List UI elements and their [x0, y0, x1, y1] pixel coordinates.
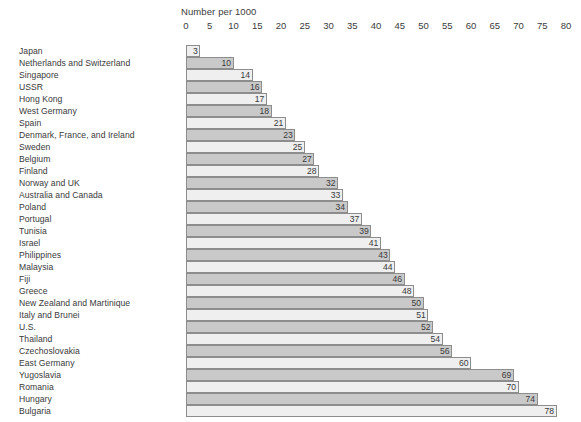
- bar-value-label: 23: [283, 130, 294, 140]
- bar-value-label: 27: [302, 154, 313, 164]
- bar-row: 10: [186, 57, 566, 69]
- x-tick-label: 20: [276, 20, 287, 31]
- bar-row: 39: [186, 225, 566, 237]
- bar-value-label: 3: [193, 46, 199, 56]
- bar: 56: [186, 345, 452, 357]
- category-label: Portugal: [19, 213, 187, 225]
- x-tick-label: 80: [561, 20, 572, 31]
- bar: 50: [186, 297, 424, 309]
- x-tick-label: 65: [489, 20, 500, 31]
- category-label: Singapore: [19, 69, 187, 81]
- x-tick-label: 40: [371, 20, 382, 31]
- bar: 16: [186, 81, 262, 93]
- x-tick-label: 50: [418, 20, 429, 31]
- bar-row: 46: [186, 273, 566, 285]
- category-label: Thailand: [19, 333, 187, 345]
- x-tick-label: 5: [207, 20, 212, 31]
- bar: 37: [186, 213, 362, 225]
- category-label: Tunisia: [19, 225, 187, 237]
- bar-row: 34: [186, 201, 566, 213]
- bar-value-label: 41: [369, 238, 380, 248]
- bar-value-label: 37: [350, 214, 361, 224]
- bar-row: 21: [186, 117, 566, 129]
- bar: 33: [186, 189, 343, 201]
- category-label: Sweden: [19, 141, 187, 153]
- category-label: USSR: [19, 81, 187, 93]
- x-tick-label: 30: [323, 20, 334, 31]
- bar-value-label: 70: [506, 382, 517, 392]
- bar-row: 60: [186, 357, 566, 369]
- category-label: Malaysia: [19, 261, 187, 273]
- bar-value-label: 48: [402, 286, 413, 296]
- bar-value-label: 54: [430, 334, 441, 344]
- x-tick-label: 35: [347, 20, 358, 31]
- bar-row: 28: [186, 165, 566, 177]
- bar-row: 17: [186, 93, 566, 105]
- category-label: Poland: [19, 201, 187, 213]
- category-label: East Germany: [19, 357, 187, 369]
- bar-row: 50: [186, 297, 566, 309]
- x-tick-label: 75: [537, 20, 548, 31]
- bar-row: 54: [186, 333, 566, 345]
- bar: 48: [186, 285, 414, 297]
- bar-row: 16: [186, 81, 566, 93]
- x-axis-tick-row: 05101520253035404550556065707580: [0, 20, 581, 33]
- bar-value-label: 50: [411, 298, 422, 308]
- category-label: Bulgaria: [19, 405, 187, 417]
- bar-value-label: 32: [326, 178, 337, 188]
- bar: 18: [186, 105, 272, 117]
- bar-value-label: 44: [383, 262, 394, 272]
- bar-value-label: 16: [250, 82, 261, 92]
- bar-row: 23: [186, 129, 566, 141]
- bar-row: 33: [186, 189, 566, 201]
- bar: 46: [186, 273, 405, 285]
- bar: 14: [186, 69, 253, 81]
- bar-value-label: 21: [274, 118, 285, 128]
- bar-value-label: 60: [459, 358, 470, 368]
- category-label: Czechoslovakia: [19, 345, 187, 357]
- x-tick-label: 25: [299, 20, 310, 31]
- bar-value-label: 14: [240, 70, 251, 80]
- category-label: Denmark, France, and Ireland: [19, 129, 187, 141]
- bar: 23: [186, 129, 295, 141]
- bar: 44: [186, 261, 395, 273]
- bar-value-label: 78: [544, 406, 555, 416]
- bar: 39: [186, 225, 371, 237]
- bar-value-label: 33: [331, 190, 342, 200]
- bar-value-label: 10: [221, 58, 232, 68]
- bar-row: 44: [186, 261, 566, 273]
- bar: 60: [186, 357, 471, 369]
- x-tick-label: 45: [394, 20, 405, 31]
- bar: 28: [186, 165, 319, 177]
- category-label: Finland: [19, 165, 187, 177]
- bar: 74: [186, 393, 538, 405]
- category-label: Philippines: [19, 249, 187, 261]
- bar-value-label: 25: [293, 142, 304, 152]
- category-label: Japan: [19, 45, 187, 57]
- bar-row: 3: [186, 45, 566, 57]
- x-tick-label: 60: [466, 20, 477, 31]
- x-tick-label: 15: [252, 20, 263, 31]
- plot-area: 3101416171821232527283233343739414344464…: [186, 45, 566, 417]
- bar-row: 48: [186, 285, 566, 297]
- bar-row: 74: [186, 393, 566, 405]
- x-tick-label: 10: [228, 20, 239, 31]
- category-label: Spain: [19, 117, 187, 129]
- category-label: Yugoslavia: [19, 369, 187, 381]
- bar-row: 51: [186, 309, 566, 321]
- bar-row: 27: [186, 153, 566, 165]
- bar-value-label: 17: [255, 94, 266, 104]
- bar-value-label: 46: [392, 274, 403, 284]
- category-label: Netherlands and Switzerland: [19, 57, 187, 69]
- bar: 34: [186, 201, 348, 213]
- bar-row: 37: [186, 213, 566, 225]
- bar: 3: [186, 45, 200, 57]
- bar-value-label: 39: [359, 226, 370, 236]
- category-label: U.S.: [19, 321, 187, 333]
- category-label: Australia and Canada: [19, 189, 187, 201]
- bar: 69: [186, 369, 514, 381]
- bar-value-label: 56: [440, 346, 451, 356]
- bar: 25: [186, 141, 305, 153]
- bar-value-label: 52: [421, 322, 432, 332]
- bar: 21: [186, 117, 286, 129]
